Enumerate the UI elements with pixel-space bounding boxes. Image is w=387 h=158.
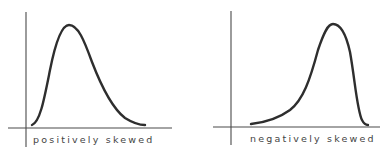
positive-skew-curve — [32, 25, 145, 125]
negative-skew-caption: negatively skewed — [250, 133, 376, 144]
negative-skew-chart — [213, 11, 380, 145]
positive-skew-chart — [8, 12, 172, 147]
positive-skew-caption: positively skewed — [33, 134, 155, 145]
negative-skew-curve — [251, 24, 368, 125]
